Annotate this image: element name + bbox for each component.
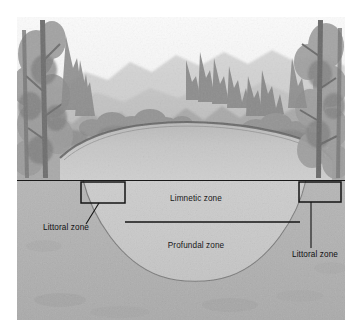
- artwork: Limnetic zone Profundal zone Littoral zo…: [12, 17, 350, 320]
- lake-zonation-figure: Limnetic zone Profundal zone Littoral zo…: [0, 0, 362, 335]
- label-profundal-zone: Profundal zone: [168, 241, 225, 250]
- landscape-scene: [12, 17, 350, 181]
- label-littoral-zone-right: Littoral zone: [292, 250, 338, 259]
- label-limnetic-zone: Limnetic zone: [170, 194, 222, 203]
- label-littoral-zone-left: Littoral zone: [43, 223, 89, 232]
- lake-zonation-diagram: Limnetic zone Profundal zone Littoral zo…: [0, 0, 362, 335]
- scene-grain: [17, 17, 345, 181]
